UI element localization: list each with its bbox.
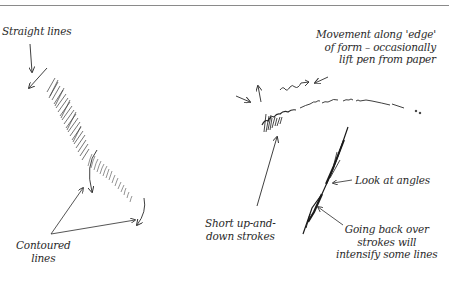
label-line: strokes will	[336, 236, 438, 249]
label-line: Straight lines	[2, 25, 71, 37]
label-line: down strokes	[205, 230, 276, 243]
label-line: Going back over	[336, 223, 438, 236]
label-short-strokes: Short up-and- down strokes	[205, 217, 276, 242]
label-look-at-angles: Look at angles	[355, 174, 430, 187]
straight-lines-pointer-arrows	[29, 44, 47, 88]
label-line: Contoured	[16, 239, 71, 252]
edge-movement-strokes	[236, 77, 421, 125]
angle-pointer-arrows	[318, 180, 352, 225]
label-straight-lines: Straight lines	[2, 25, 71, 38]
label-contoured-lines: Contoured lines	[16, 239, 71, 264]
label-line: Short up-and-	[205, 217, 276, 230]
contoured-lines-pointer-arrows	[51, 188, 135, 234]
label-line: Movement along 'edge'	[316, 28, 436, 41]
contour-curve-arrows	[89, 150, 144, 225]
label-going-back-over: Going back over strokes will intensify s…	[336, 223, 438, 261]
label-line: of form – occasionally	[316, 41, 436, 54]
label-line: intensify some lines	[336, 248, 438, 261]
label-line: Look at angles	[355, 174, 430, 186]
straight-hatching-strokes	[47, 78, 89, 160]
label-line: lift pen from paper	[316, 53, 436, 66]
short-strokes-pointer-arrow	[257, 137, 277, 206]
angled-line-strokes	[303, 127, 348, 234]
label-movement-along-edge: Movement along 'edge' of form – occasion…	[316, 28, 436, 66]
contoured-hatching-strokes	[88, 154, 132, 202]
label-line: lines	[16, 252, 71, 265]
